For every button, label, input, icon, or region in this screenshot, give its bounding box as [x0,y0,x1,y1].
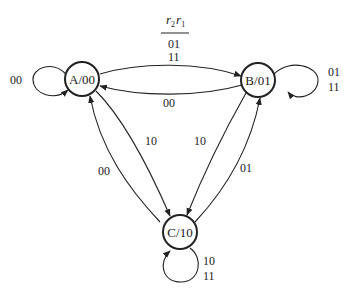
edge-a-to-b-arrow [100,65,241,76]
edge-c-to-b-label: 01 [240,161,252,175]
self-loop-b: 01 11 [274,65,340,97]
edge-b-to-a-arrow [100,85,242,94]
self-loop-b-label-1: 01 [328,65,340,79]
legend-variables: r2r1 [166,12,185,29]
edge-c-to-b: 01 [195,98,260,222]
self-loop-c-arrow [163,248,198,282]
self-loop-a: 00 [10,67,68,96]
state-c-label: C/10 [167,225,192,240]
edge-a-to-b [100,65,241,76]
self-loop-a-label: 00 [10,73,22,87]
legend-line-1: 01 [168,37,180,51]
self-loop-a-arrow [33,67,68,96]
edge-c-to-a: 00 [90,96,160,222]
edge-b-to-a-label: 00 [163,96,175,110]
state-b: B/01 [241,63,275,97]
state-c: C/10 [163,215,197,249]
edge-a-to-c: 10 [96,91,170,216]
state-a-label: A/00 [69,72,95,87]
input-legend: r2r1 01 11 [161,12,189,64]
state-b-label: B/01 [245,73,270,88]
edge-c-to-a-arrow [90,96,160,222]
self-loop-c: 10 11 [163,248,215,283]
state-diagram: r2r1 01 11 00 01 11 10 11 00 10 00 10 [0,0,352,297]
edge-b-to-a: 00 [100,85,242,110]
edge-a-to-c-arrow [96,91,170,216]
edge-c-to-b-arrow [195,98,260,222]
edge-c-to-a-label: 00 [98,164,110,178]
self-loop-c-label-1: 10 [203,254,215,268]
self-loop-c-label-2: 11 [203,269,215,283]
self-loop-b-arrow [274,65,318,97]
legend-line-2: 11 [168,50,180,64]
edge-a-to-c-label: 10 [145,134,157,148]
state-a: A/00 [65,62,99,96]
edge-b-to-c-label: 10 [194,134,206,148]
self-loop-b-label-2: 11 [328,80,340,94]
